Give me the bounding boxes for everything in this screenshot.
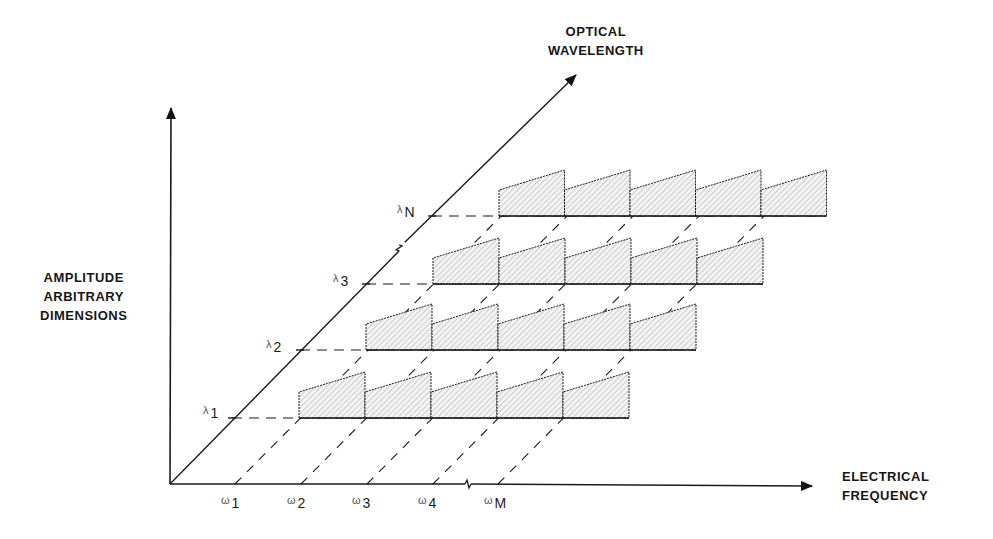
frequency-label-1: ω1 [221,494,239,511]
channel-block [497,372,563,418]
amplitude-axis-arrow [170,108,171,484]
channel-block [366,304,432,350]
channel-block [299,372,365,418]
axis-label-line: DIMENSIONS [40,306,127,325]
channel-block [631,238,697,284]
omega-symbol: ω [221,494,230,506]
channel-block [761,170,827,216]
wavelength-row-1 [299,372,629,418]
channel-block [431,372,497,418]
axis-break-icon [396,245,402,251]
electrical-frequency-axis-label: ELECTRICAL FREQUENCY [842,467,929,505]
wavelength-label-n: λN [397,203,415,220]
amplitude-axis-label: AMPLITUDE ARBITRARY DIMENSIONS [40,268,127,325]
channel-block [499,238,565,284]
axis-label-line: FREQUENCY [842,486,929,505]
frequency-label-3: ω3 [352,494,370,511]
wavelength-axis-arrow [405,75,576,242]
frequency-axis-arrow [471,484,812,486]
lambda-symbol: λ [203,404,209,416]
wavelength-row-3 [433,238,763,284]
omega-symbol: ω [418,494,427,506]
omega-subscript: 2 [298,495,306,511]
frequency-label-m: ωM [484,494,506,511]
channel-block [565,170,631,216]
channel-block [498,304,564,350]
lambda-symbol: λ [333,272,339,284]
channel-block [432,304,498,350]
channel-block [365,372,431,418]
frequency-label-4: ω4 [418,494,436,511]
lambda-subscript: 2 [274,339,282,355]
optical-wavelength-axis-label: OPTICAL WAVELENGTH [548,22,644,60]
omega-subscript: 3 [363,495,371,511]
lambda-subscript: 1 [211,405,219,421]
wavelength-row-4 [499,170,827,216]
channel-block [697,238,763,284]
channel-block [499,170,565,216]
omega-symbol: ω [352,494,361,506]
wavelength-label-2: λ2 [266,338,281,355]
channel-block [630,170,696,216]
axis-label-line: AMPLITUDE [40,268,127,287]
omega-subscript: 4 [429,495,437,511]
lambda-symbol: λ [266,338,272,350]
channel-spectra-blocks [299,170,827,418]
omega-symbol: ω [287,494,296,506]
wavelength-axis [170,251,399,484]
axis-break-icon [465,480,471,488]
channel-block [564,304,630,350]
omega-subscript: 1 [232,495,240,511]
wdm-frequency-wavelength-diagram [0,0,993,539]
wavelength-row-2 [366,304,696,350]
channel-block [630,304,696,350]
frequency-label-2: ω2 [287,494,305,511]
channel-block [433,238,499,284]
wavelength-label-1: λ1 [203,404,218,421]
axis-label-line: OPTICAL [548,22,644,41]
axis-label-line: WAVELENGTH [548,41,644,60]
axis-label-line: ARBITRARY [40,287,127,306]
omega-symbol: ω [484,494,493,506]
omega-subscript: M [495,495,507,511]
wavelength-label-3: λ3 [333,272,348,289]
lambda-subscript: 3 [341,273,349,289]
lambda-subscript: N [405,204,415,220]
channel-block [565,238,631,284]
axis-label-line: ELECTRICAL [842,467,929,486]
channel-block [563,372,629,418]
channel-block [696,170,762,216]
lambda-symbol: λ [397,203,403,215]
